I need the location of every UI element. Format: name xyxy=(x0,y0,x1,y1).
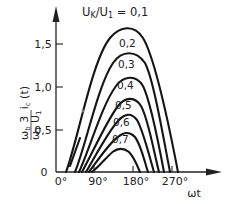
curve-label-0-6: 0,6 xyxy=(113,116,130,128)
chart: 0 0,5 1,0 1,5 0° 90° 180° 270° ωt UK/U1 … xyxy=(0,0,230,204)
y-tick-1-5: 1,5 xyxy=(34,38,52,51)
y-tick-1-0: 1,0 xyxy=(34,81,52,94)
y-tick-0: 0 xyxy=(41,166,48,179)
y-axis-arrow-icon xyxy=(53,6,60,22)
x-tick-180: 180° xyxy=(123,175,150,188)
curve-label-0-4: 0,4 xyxy=(117,79,134,91)
curve-label-0-2: 0,2 xyxy=(119,37,136,49)
x-axis-arrow-icon xyxy=(206,169,222,176)
curve-label-0-5: 0,5 xyxy=(115,99,132,111)
curve-label-0-7: 0,7 xyxy=(112,133,129,145)
chart-title: UK/U1 = 0,1 xyxy=(82,5,148,20)
y-axis-label: ωb 3 ic (t) ωT U1 xyxy=(18,86,43,140)
x-tick-270: 270° xyxy=(162,175,189,188)
x-tick-0: 0° xyxy=(55,175,68,188)
curve-label-0-3: 0,3 xyxy=(118,58,135,70)
x-axis-label: ωt xyxy=(187,187,201,200)
x-tick-90: 90° xyxy=(88,175,108,188)
